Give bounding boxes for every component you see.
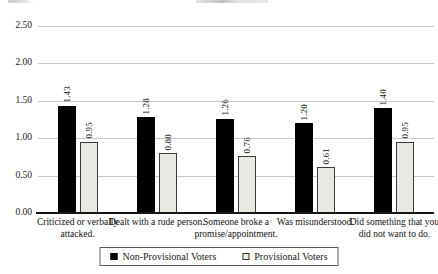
bar-provisional xyxy=(80,142,98,213)
bar-value-label: 1.28 xyxy=(141,98,151,115)
plot-area: 1.430.951.280.801.260.761.200.611.400.95 xyxy=(38,26,434,213)
bar-value-label: 1.20 xyxy=(299,104,309,121)
legend: Non-Provisional VotersProvisional Voters xyxy=(99,247,338,266)
bar-value-label: 0.61 xyxy=(321,148,331,165)
bar-provisional xyxy=(317,167,335,213)
legend-item: Non-Provisional Voters xyxy=(110,251,216,262)
legend-label: Non-Provisional Voters xyxy=(122,251,216,262)
provisional-swatch-icon xyxy=(242,253,249,260)
bar-group: 1.280.80 xyxy=(117,26,196,213)
bar-chart-figure: 0.000.501.001.502.002.50 1.430.951.280.8… xyxy=(0,0,438,274)
bar-non-provisional xyxy=(374,108,392,213)
cropped-text-fragment xyxy=(8,0,34,3)
x-axis-line xyxy=(36,212,434,214)
cropped-text-fragment xyxy=(196,0,268,3)
bar-value-label: 0.80 xyxy=(163,134,173,151)
category-label: Did something that you did not want to d… xyxy=(344,217,438,240)
legend-item: Provisional Voters xyxy=(242,251,327,262)
bar-group: 1.260.76 xyxy=(196,26,275,213)
bar-group: 1.400.95 xyxy=(355,26,434,213)
bar-value-label: 0.95 xyxy=(400,122,410,139)
bar-non-provisional xyxy=(295,123,313,213)
bar-provisional xyxy=(238,156,256,213)
y-tick-label: 0.50 xyxy=(0,170,32,181)
y-tick-label: 1.50 xyxy=(0,95,32,106)
bar-value-label: 1.40 xyxy=(378,89,388,106)
bar-non-provisional xyxy=(216,119,234,213)
y-tick-label: 2.50 xyxy=(0,20,32,31)
bar-value-label: 1.43 xyxy=(62,86,72,103)
bar-provisional xyxy=(159,153,177,213)
legend-label: Provisional Voters xyxy=(254,251,327,262)
bar-value-label: 1.26 xyxy=(220,99,230,116)
bar-provisional xyxy=(396,142,414,213)
bar-non-provisional xyxy=(58,106,76,213)
non-provisional-swatch-icon xyxy=(110,253,117,260)
y-tick-label: 2.00 xyxy=(0,57,32,68)
bar-non-provisional xyxy=(137,117,155,213)
bar-value-label: 0.95 xyxy=(84,122,94,139)
bar-group: 1.200.61 xyxy=(276,26,355,213)
y-tick-label: 1.00 xyxy=(0,132,32,143)
bar-group: 1.430.95 xyxy=(38,26,117,213)
bar-value-label: 0.76 xyxy=(242,137,252,154)
